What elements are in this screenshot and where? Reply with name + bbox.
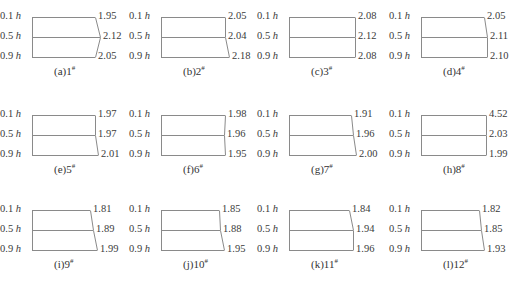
diagram-panel-l: 0.1 h0.5 h0.9 h1.821.851.93(l)12# — [0, 0, 516, 282]
value-label: 1.82 — [482, 204, 500, 215]
panel-outline — [0, 0, 516, 282]
value-label: 1.85 — [484, 224, 502, 235]
height-label: 0.9 h — [389, 244, 410, 255]
value-label: 1.93 — [487, 244, 505, 255]
height-label: 0.1 h — [389, 204, 410, 215]
height-label: 0.5 h — [389, 224, 410, 235]
panel-caption: (l)12# — [443, 259, 468, 270]
